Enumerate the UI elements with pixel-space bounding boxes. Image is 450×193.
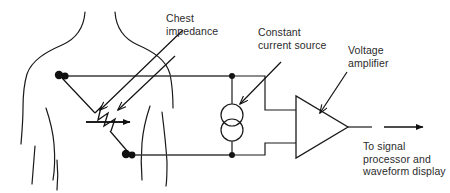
amplifier-input-wires (232, 76, 296, 155)
constant-current-source-pointer (240, 62, 281, 104)
voltage-amplifier-pointer (320, 72, 347, 113)
electrode-lead-upper (62, 78, 95, 113)
voltage-amplifier-label: Voltage amplifier (348, 44, 389, 69)
upper-electrode (55, 71, 69, 80)
voltage-amplifier (296, 96, 348, 158)
patient-torso-outline (21, 12, 173, 190)
lower-electrode (122, 150, 136, 159)
impedance-pneumography-diagram: Chest impedance Constant current source … (0, 0, 450, 193)
constant-current-source-label: Constant current source (258, 26, 327, 51)
electrode-lead-lower (110, 131, 128, 152)
constant-current-source (221, 76, 243, 155)
output-destination-label: To signal processor and waveform display (363, 140, 446, 178)
chest-impedance-pointer-left (100, 30, 183, 110)
chest-impedance-pointer-right (118, 56, 175, 110)
chest-impedance-label: Chest impedance (166, 12, 218, 37)
